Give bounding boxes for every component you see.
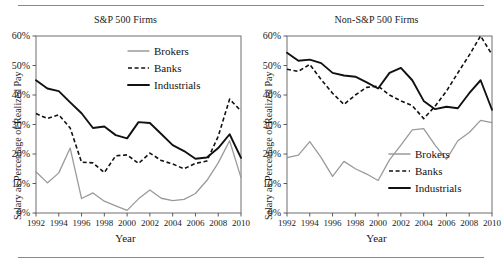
- legend-label-banks: Banks: [154, 62, 182, 74]
- x-tick-label: 1992: [27, 218, 45, 228]
- plot-svg-sp500: 0%10%20%30%40%50%60%19921994199619982000…: [0, 14, 251, 246]
- series-line-brokers: [36, 141, 241, 211]
- y-tick-label: 60%: [12, 30, 30, 41]
- x-tick-label: 1996: [73, 218, 92, 228]
- y-tick-label: 20%: [12, 148, 30, 159]
- series-line-industrials: [287, 53, 492, 110]
- x-tick-label: 2006: [437, 218, 456, 228]
- y-tick-label: 10%: [12, 178, 30, 189]
- x-tick-label: 2010: [232, 218, 251, 228]
- legend-label-brokers: Brokers: [154, 45, 189, 57]
- x-axis-label-sp500: Year: [0, 232, 251, 244]
- legend-label-banks: Banks: [415, 165, 443, 177]
- x-tick-label: 1994: [50, 218, 69, 228]
- x-tick-label: 1994: [301, 218, 320, 228]
- chart-panel-sp500: S&P 500 Firms Salary as Percentage of Re…: [0, 14, 251, 246]
- y-tick-label: 50%: [12, 60, 30, 71]
- plot-svg-nonsp500: 0%10%20%30%40%50%60%19921994199619982000…: [251, 14, 502, 246]
- top-rule: [18, 5, 484, 6]
- x-tick-label: 1998: [346, 218, 365, 228]
- x-tick-label: 2004: [415, 218, 434, 228]
- y-tick-label: 30%: [12, 119, 30, 130]
- plot-area-nonsp500: 0%10%20%30%40%50%60%19921994199619982000…: [251, 14, 502, 246]
- figure-container: S&P 500 Firms Salary as Percentage of Re…: [0, 0, 502, 268]
- bottom-rule: [18, 257, 484, 258]
- y-tick-label: 50%: [263, 60, 281, 71]
- y-tick-label: 40%: [263, 89, 281, 100]
- x-tick-label: 1998: [95, 218, 114, 228]
- series-line-banks: [287, 36, 492, 119]
- x-tick-label: 2006: [186, 218, 205, 228]
- x-tick-label: 1992: [278, 218, 296, 228]
- x-tick-label: 1996: [324, 218, 343, 228]
- plot-frame: [36, 36, 241, 213]
- plot-area-sp500: 0%10%20%30%40%50%60%19921994199619982000…: [0, 14, 251, 246]
- series-line-industrials: [36, 80, 241, 158]
- x-tick-label: 2002: [141, 218, 159, 228]
- y-tick-label: 20%: [263, 148, 281, 159]
- y-tick-label: 30%: [263, 119, 281, 130]
- y-tick-label: 60%: [263, 30, 281, 41]
- x-tick-label: 2008: [209, 218, 228, 228]
- series-line-banks: [36, 99, 241, 172]
- legend-label-industrials: Industrials: [415, 182, 461, 194]
- y-tick-label: 40%: [12, 89, 30, 100]
- x-tick-label: 2000: [118, 218, 137, 228]
- x-tick-label: 2010: [483, 218, 502, 228]
- legend-label-brokers: Brokers: [415, 148, 450, 160]
- x-tick-label: 2000: [369, 218, 388, 228]
- x-tick-label: 2004: [164, 218, 183, 228]
- x-axis-label-nonsp500: Year: [251, 232, 502, 244]
- y-tick-label: 10%: [263, 178, 281, 189]
- x-tick-label: 2008: [460, 218, 479, 228]
- x-tick-label: 2002: [392, 218, 410, 228]
- legend-label-industrials: Industrials: [154, 79, 200, 91]
- chart-panels: S&P 500 Firms Salary as Percentage of Re…: [0, 14, 502, 246]
- chart-panel-nonsp500: Non-S&P 500 Firms Salary as Percentage o…: [251, 14, 502, 246]
